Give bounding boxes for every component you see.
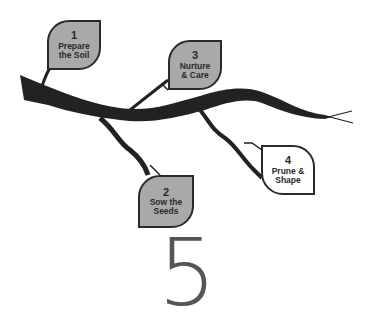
step-4-label-line2: Shape bbox=[275, 176, 301, 185]
step-3-label-line2: & Care bbox=[181, 71, 208, 80]
step-4-leaf: 4 Prune & Shape bbox=[261, 145, 315, 195]
step-1-label-line2: the Soil bbox=[59, 51, 90, 60]
big-step-number: 5 bbox=[158, 228, 217, 320]
step-2-label-line2: Seeds bbox=[153, 207, 178, 216]
step-3-leaf: 3 Nurture & Care bbox=[168, 40, 222, 90]
step-1-leaf: 1 Prepare the Soil bbox=[47, 20, 101, 70]
